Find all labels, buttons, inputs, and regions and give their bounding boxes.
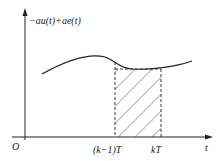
x-axis-label: t <box>205 142 208 153</box>
hatched-area <box>115 69 161 137</box>
x-axis-arrow-icon <box>205 135 213 140</box>
y-axis-arrow-icon <box>23 8 28 16</box>
tick-label-k: kT <box>151 144 162 155</box>
origin-label: O <box>12 141 19 152</box>
diagram: −au(t)+ae(t) O (k−1)T kT t <box>0 0 219 161</box>
y-axis-label: −au(t)+ae(t) <box>29 15 81 27</box>
tick-label-k-1: (k−1)T <box>93 144 123 156</box>
